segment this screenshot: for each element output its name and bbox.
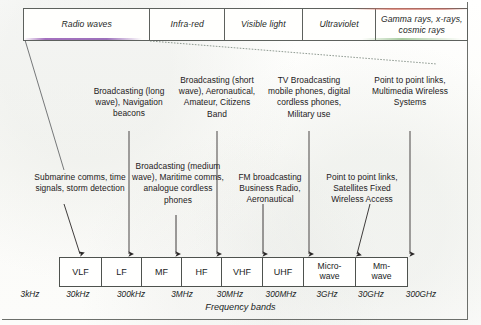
band-vlf: VLF [60, 258, 102, 286]
arrow-microwave [357, 204, 370, 254]
tick-300mhz: 300MHz [266, 289, 297, 299]
frequency-tick-labels: 3kHz30kHz300kHz3MHz30MHz300MHz3GHz30GHz3… [0, 289, 481, 301]
expansion-diagonal-left [25, 40, 64, 170]
tick-3mhz: 3MHz [171, 289, 193, 299]
note-mmwave-uses: Point to point links, Multimedia Wireles… [372, 75, 448, 109]
spectrum-diagram: Radio wavesInfra-redVisible lightUltravi… [0, 0, 481, 325]
band-mf: MF [142, 258, 182, 286]
band-mmwave: Mm- wave [356, 258, 407, 286]
note-lf-uses: Broadcasting (long wave), Navigation bea… [88, 86, 170, 120]
note-vlf-uses: Submarine comms, time signals, storm det… [33, 172, 127, 194]
note-mf-uses: Broadcasting (medium wave), Maritime com… [131, 161, 225, 206]
band-hf: HF [182, 258, 222, 286]
arrow-vlf [64, 204, 80, 254]
band-lf: LF [102, 258, 142, 286]
band-uhf: UHF [263, 258, 304, 286]
band-vhf: VHF [222, 258, 263, 286]
tick-3ghz: 3GHz [316, 289, 337, 299]
expansion-diagonal-right [150, 41, 437, 64]
band-microwave: Micro- wave [304, 258, 356, 286]
tick-30ghz: 30GHz [358, 289, 384, 299]
note-uhf-uses: TV Broadcasting mobile phones, digital c… [266, 75, 352, 120]
axis-caption: Frequency bands [0, 302, 481, 312]
tick-300khz: 300kHz [117, 289, 145, 299]
tick-300ghz: 300GHz [406, 289, 436, 299]
tick-3khz: 3kHz [21, 289, 40, 299]
note-vhf-uses: FM broadcasting Business Radio, Aeronaut… [228, 172, 312, 206]
note-microwave-uses: Point to point links, Satellites Fixed W… [320, 172, 404, 206]
tick-30khz: 30kHz [66, 289, 90, 299]
frequency-band-table: VLFLFMFHFVHFUHFMicro- waveMm- wave [59, 257, 408, 287]
note-hf-uses: Broadcasting (short wave), Aeronautical,… [174, 75, 260, 120]
tick-30mhz: 30MHz [217, 289, 243, 299]
